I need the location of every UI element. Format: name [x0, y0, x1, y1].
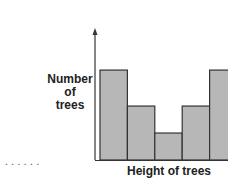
bars-group: [100, 70, 228, 160]
histogram-bar: [100, 70, 127, 160]
histogram-bar: [182, 106, 209, 160]
y-axis-label: Number of trees: [44, 73, 96, 112]
y-axis-label-line: trees: [44, 99, 96, 112]
y-axis-arrow-icon: [93, 28, 98, 35]
dotted-leader: ......: [5, 159, 43, 165]
x-axis-label: Height of trees: [110, 164, 228, 178]
histogram-bar: [155, 133, 182, 160]
histogram-bar: [127, 106, 154, 160]
histogram-chart: [0, 0, 228, 181]
histogram-bar: [210, 70, 228, 160]
